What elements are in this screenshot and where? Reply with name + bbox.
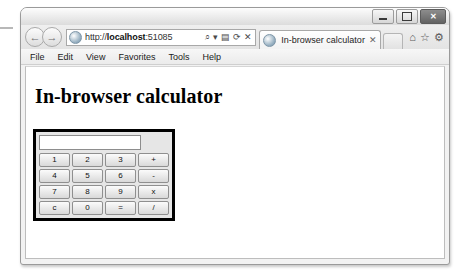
calc-key-6[interactable]: 6 [105, 169, 136, 183]
close-button[interactable]: ✕ [420, 9, 446, 24]
search-icon[interactable]: ⌕ [205, 33, 210, 42]
calc-key-1[interactable]: 1 [39, 153, 70, 167]
page-title: In-browser calculator [35, 85, 444, 108]
menu-item-file[interactable]: File [30, 52, 45, 62]
browser-toolbar-icons: ⌂ ☆ ⚙ [409, 32, 444, 43]
calc-key-3[interactable]: 3 [105, 153, 136, 167]
new-tab-button[interactable] [383, 33, 403, 49]
browser-window: ✕ ← → http://localhost:51085 ⌕ ▾ ▤ ⟳ ✕ I… [20, 7, 450, 265]
calc-key-4[interactable]: 4 [39, 169, 70, 183]
favorites-icon[interactable]: ☆ [420, 32, 430, 43]
menu-item-edit[interactable]: Edit [58, 52, 74, 62]
tab-title: In-browser calculator [281, 35, 369, 45]
calc-key-5[interactable]: 5 [72, 169, 103, 183]
address-input[interactable]: http://localhost:51085 [85, 32, 205, 42]
calc-key-8[interactable]: 8 [72, 185, 103, 199]
calc-key-equals[interactable]: = [105, 201, 136, 215]
tab-close-icon[interactable]: ✕ [369, 35, 377, 45]
stop-icon[interactable]: ✕ [244, 33, 252, 42]
window-controls: ✕ [372, 9, 446, 24]
calc-key-minus[interactable]: - [138, 169, 169, 183]
calculator-display-input[interactable] [39, 135, 141, 150]
calc-key-clear[interactable]: c [39, 201, 70, 215]
menu-bar: File Edit View Favorites Tools Help [21, 49, 449, 65]
tab-favicon-icon [263, 34, 276, 47]
calc-key-plus[interactable]: + [138, 153, 169, 167]
dropdown-icon[interactable]: ▾ [213, 33, 218, 42]
calc-key-divide[interactable]: / [138, 201, 169, 215]
calc-key-7[interactable]: 7 [39, 185, 70, 199]
menu-item-help[interactable]: Help [202, 52, 221, 62]
address-bar[interactable]: http://localhost:51085 ⌕ ▾ ▤ ⟳ ✕ [66, 29, 256, 46]
calculator-keypad: 1 2 3 + 4 5 6 - 7 8 9 x c 0 = / [39, 153, 169, 215]
calc-key-multiply[interactable]: x [138, 185, 169, 199]
menu-item-tools[interactable]: Tools [168, 52, 189, 62]
stray-mark [0, 27, 13, 29]
menu-item-favorites[interactable]: Favorites [118, 52, 155, 62]
forward-button[interactable]: → [42, 27, 62, 47]
calc-key-0[interactable]: 0 [72, 201, 103, 215]
home-icon[interactable]: ⌂ [409, 32, 416, 43]
refresh-icon[interactable]: ⟳ [233, 33, 241, 42]
page-content: In-browser calculator 1 2 3 + 4 5 6 - 7 … [25, 66, 445, 259]
minimize-button[interactable] [372, 9, 394, 24]
calc-key-2[interactable]: 2 [72, 153, 103, 167]
browser-tab[interactable]: In-browser calculator ✕ [259, 30, 381, 49]
calculator-widget: 1 2 3 + 4 5 6 - 7 8 9 x c 0 = / [33, 129, 175, 221]
address-bar-icons: ⌕ ▾ ▤ ⟳ ✕ [205, 33, 253, 42]
tools-icon[interactable]: ⚙ [434, 32, 444, 43]
calc-key-9[interactable]: 9 [105, 185, 136, 199]
maximize-button[interactable] [396, 9, 418, 24]
navigation-bar: ← → http://localhost:51085 ⌕ ▾ ▤ ⟳ ✕ In-… [21, 25, 449, 49]
menu-item-view[interactable]: View [86, 52, 105, 62]
site-favicon-icon [69, 31, 82, 44]
compatibility-view-icon[interactable]: ▤ [221, 33, 230, 42]
title-bar: ✕ [21, 8, 449, 26]
